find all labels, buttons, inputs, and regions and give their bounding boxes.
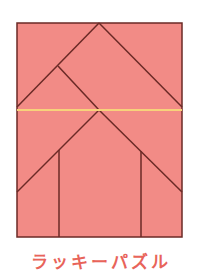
puzzle-caption: ラッキーパズル bbox=[0, 248, 201, 273]
puzzle-frame bbox=[17, 23, 182, 237]
lucky-puzzle-diagram bbox=[0, 0, 201, 245]
